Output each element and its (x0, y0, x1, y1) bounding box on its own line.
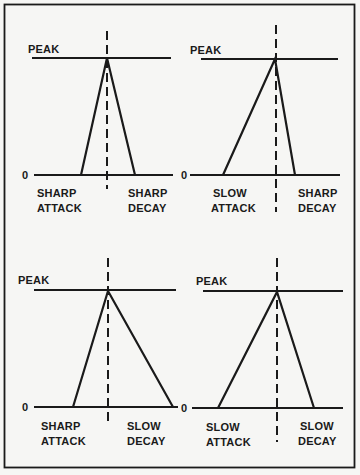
attack-label-line2: ATTACK (41, 435, 86, 447)
decay-label-line2: DECAY (127, 435, 166, 447)
panel-slow-attack-sharp-decay: PEAK 0 SLOW ATTACK SHARP DECAY (181, 25, 340, 214)
figure-border (5, 5, 355, 468)
attack-label-line1: SHARP (41, 420, 81, 432)
decay-label-line1: SHARP (298, 187, 338, 199)
attack-label-line2: ATTACK (37, 202, 82, 214)
envelope-triangle (218, 292, 314, 408)
panel-sharp-attack-sharp-decay: PEAK 0 SHARP ATTACK SHARP DECAY (22, 31, 173, 214)
zero-label: 0 (181, 402, 187, 414)
zero-label: 0 (181, 169, 187, 181)
decay-label-line2: DECAY (298, 202, 337, 214)
attack-label-line1: SHARP (37, 187, 77, 199)
attack-label-line2: ATTACK (206, 436, 251, 448)
attack-label-line1: SLOW (213, 187, 247, 199)
zero-label: 0 (22, 169, 28, 181)
zero-label: 0 (22, 401, 28, 413)
peak-label: PEAK (190, 44, 221, 56)
envelope-diagram: PEAK 0 SHARP ATTACK SHARP DECAY PEAK 0 S… (0, 0, 360, 475)
attack-label-line1: SLOW (206, 421, 240, 433)
decay-label-line2: DECAY (298, 435, 337, 447)
peak-label: PEAK (18, 274, 49, 286)
panel-slow-attack-slow-decay: PEAK 0 SLOW ATTACK SLOW DECAY (181, 258, 343, 448)
decay-label-line2: DECAY (128, 202, 167, 214)
peak-label: PEAK (196, 275, 227, 287)
attack-label-line2: ATTACK (211, 202, 256, 214)
peak-label: PEAK (28, 43, 59, 55)
panel-sharp-attack-slow-decay: PEAK 0 SHARP ATTACK SLOW DECAY (18, 258, 178, 447)
decay-label-line1: SLOW (300, 420, 334, 432)
envelope-triangle (223, 59, 295, 175)
envelope-triangle (73, 291, 173, 407)
decay-label-line1: SLOW (127, 420, 161, 432)
decay-label-line1: SHARP (128, 187, 168, 199)
